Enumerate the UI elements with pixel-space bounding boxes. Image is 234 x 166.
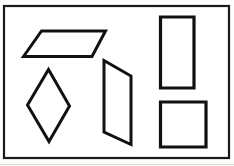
shape-slanted-quadrilateral	[104, 61, 131, 145]
quadrilaterals-figure	[0, 0, 234, 166]
shape-square	[161, 102, 207, 147]
shape-tall-rectangle	[161, 17, 195, 88]
figure-container	[0, 0, 234, 166]
